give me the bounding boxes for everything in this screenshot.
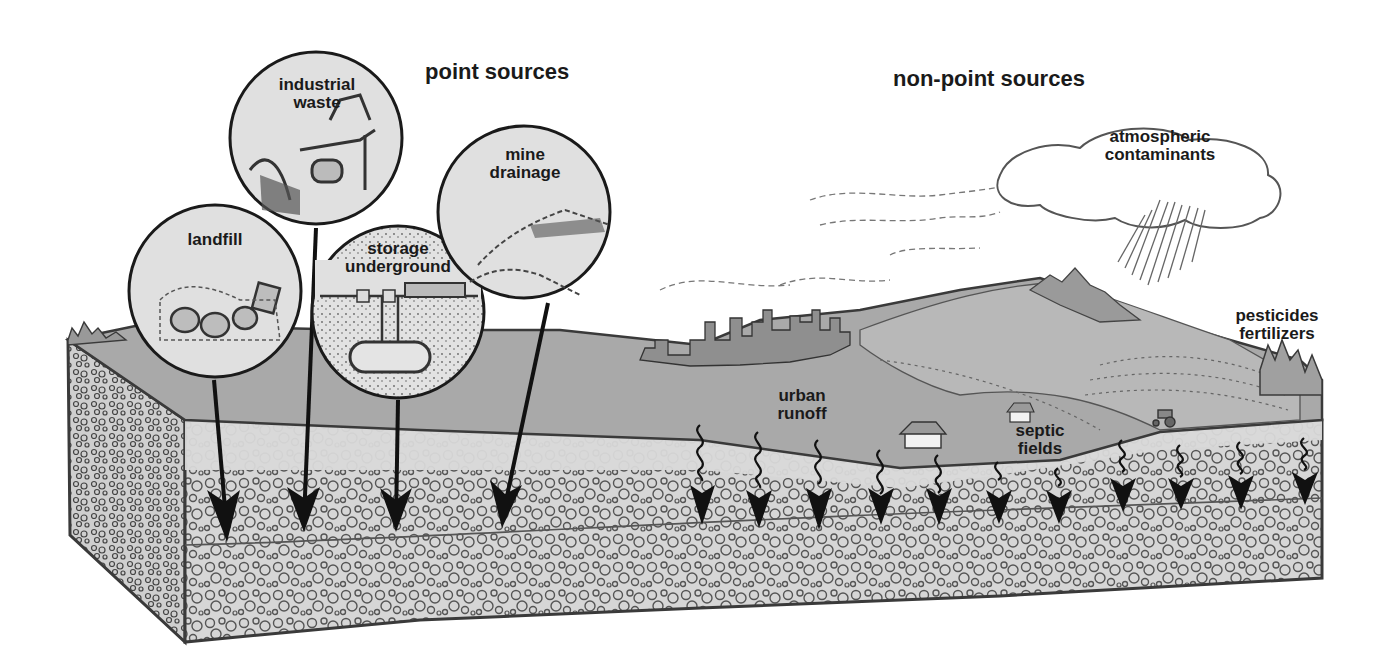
trees-right — [1260, 340, 1322, 395]
sketch-clouds — [660, 175, 1040, 290]
label-atmospheric-contaminants: atmosphericcontaminants — [1080, 128, 1240, 164]
label-mine-drainage: minedrainage — [470, 146, 580, 182]
label-pesticides-fertilizers: pesticidesfertilizers — [1212, 307, 1342, 343]
groundwater-contamination-diagram — [0, 0, 1400, 668]
non-point-sources-header: non-point sources — [893, 67, 1085, 90]
label-septic-fields: septicfields — [1000, 422, 1080, 458]
point-sources-header: point sources — [425, 60, 569, 83]
label-landfill: landfill — [160, 231, 270, 249]
label-urban-runoff: urbanrunoff — [762, 387, 842, 423]
label-industrial-waste: industrialwaste — [262, 76, 372, 112]
city-skyline — [640, 310, 850, 366]
label-storage-underground: storageunderground — [318, 240, 478, 276]
